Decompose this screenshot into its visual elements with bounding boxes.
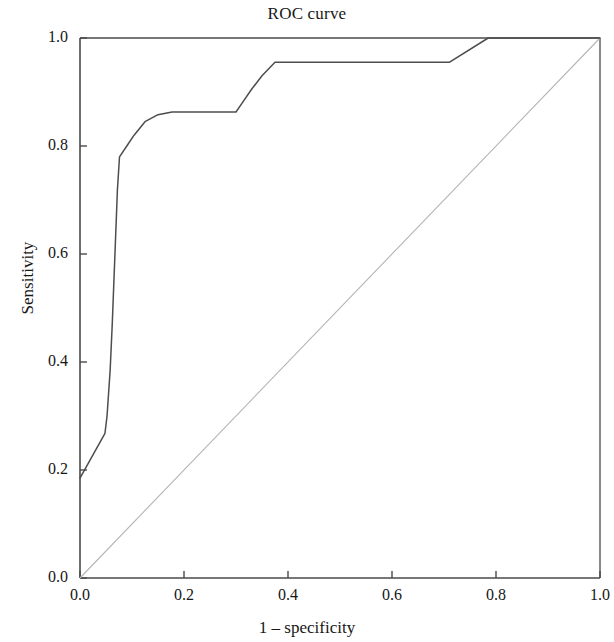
plot-area (0, 0, 614, 642)
roc-curve-figure: ROC curve Sensitivity 1 – specificity 1.… (0, 0, 614, 642)
reference-diagonal-line (80, 38, 600, 578)
roc-curve-line (80, 38, 600, 478)
